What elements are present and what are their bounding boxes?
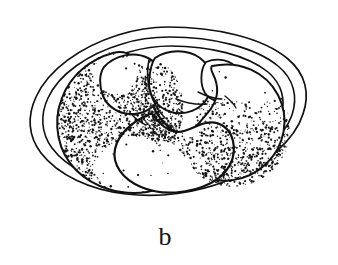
figure-caption: b <box>0 222 338 252</box>
figure-container: b <box>0 0 338 265</box>
figure-label: b <box>159 222 172 252</box>
